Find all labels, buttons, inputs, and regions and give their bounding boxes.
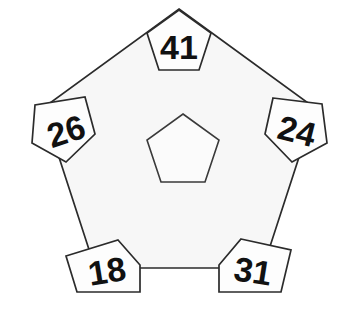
diagram-root: 41 26 24 18 31: [0, 0, 358, 324]
node-top-label: 41: [160, 28, 198, 66]
pentagon-diagram: 41 26 24 18 31: [0, 0, 358, 324]
node-lower-right-label: 31: [231, 249, 274, 292]
node-lower-left-label: 18: [85, 249, 128, 292]
node-top-group[interactable]: 41: [147, 10, 211, 70]
